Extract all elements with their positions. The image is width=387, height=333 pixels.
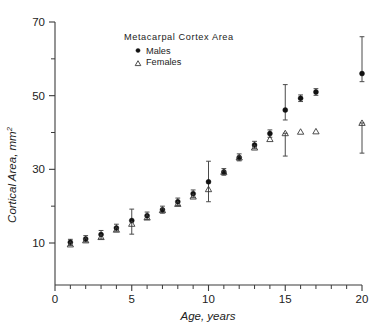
chart-figure: 10305070 05101520 Cortical Area, mm2 Age… [0,0,387,333]
x-axis-ticks [55,285,362,291]
data-point-female [313,128,319,133]
x-tick-label: 20 [356,293,369,305]
legend-title: Metacarpal Cortex Area [124,32,234,42]
y-axis-title-text: Cortical Area, mm2 [5,126,18,223]
y-axis-ticks [49,22,55,243]
y-tick-label: 50 [32,90,45,102]
y-axis-tick-labels: 10305070 [32,16,45,249]
x-tick-label: 5 [129,293,135,305]
data-points-males [68,71,365,245]
x-tick-label: 15 [279,293,292,305]
axes-group [55,22,362,285]
data-point-female [297,129,303,134]
y-tick-label: 70 [32,16,45,28]
data-points-females [67,120,365,247]
error-bars-males [68,37,364,246]
y-tick-label: 30 [32,163,45,175]
y-tick-label: 10 [32,237,45,249]
data-point-male [206,179,211,184]
x-axis-tick-labels: 05101520 [52,293,369,305]
x-axis-title: Age, years [180,310,236,322]
data-point-male [313,89,318,94]
data-point-male [360,71,365,76]
data-point-male [283,108,288,113]
y-axis-title: Cortical Area, mm2 [5,126,18,223]
x-tick-label: 0 [52,293,58,305]
legend-label-females: Females [146,57,182,67]
legend-label-males: Males [146,46,171,56]
data-point-male [298,96,303,101]
chart-legend: Metacarpal Cortex Area Males Females [124,32,234,67]
legend-marker-females-open-triangle-icon [135,61,141,66]
error-bars-females [283,123,365,156]
x-tick-label: 10 [202,293,215,305]
legend-marker-males-filled-circle-icon [136,48,140,52]
metacarpal-cortex-area-scatter-chart: 10305070 05101520 Cortical Area, mm2 Age… [0,0,387,333]
